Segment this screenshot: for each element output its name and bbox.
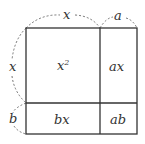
cell-x-squared: x2 — [57, 58, 69, 73]
cell-ab: ab — [110, 112, 126, 127]
cell-bx: bx — [54, 112, 70, 127]
label-top-x: x — [63, 7, 71, 22]
cell-ax: ax — [109, 59, 125, 74]
area-diagram: x a x b x2 ax bx ab — [0, 0, 145, 144]
label-side-b: b — [9, 111, 17, 126]
label-side-x: x — [9, 59, 17, 74]
label-top-a: a — [114, 8, 122, 23]
